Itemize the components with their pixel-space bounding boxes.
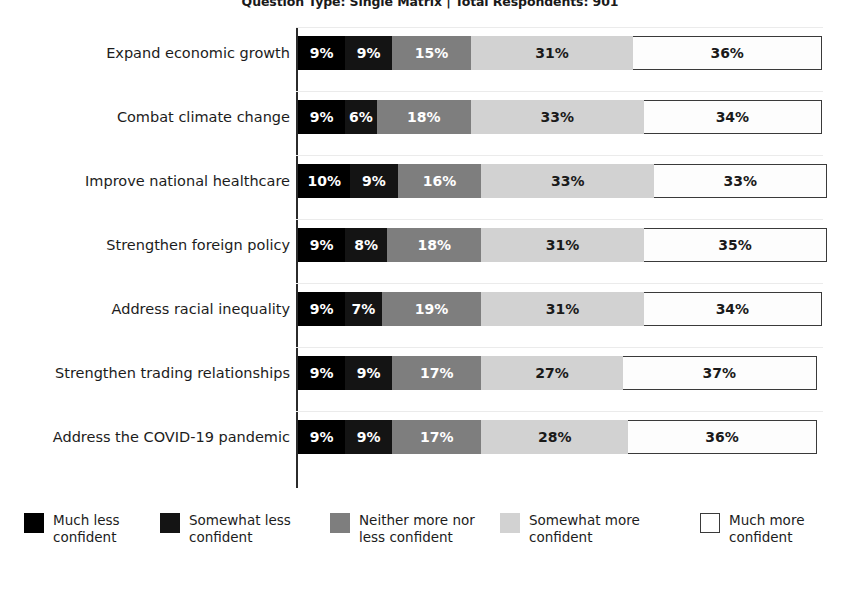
chart-row: Combat climate change9%6%18%33%34%	[0, 100, 860, 134]
gridline	[296, 155, 823, 156]
legend-label: Somewhat more confident	[529, 512, 640, 546]
stacked-bar: 10%9%16%33%33%	[298, 164, 822, 198]
category-label: Address the COVID-19 pandemic	[53, 420, 290, 454]
category-label: Expand economic growth	[106, 36, 290, 70]
gridline	[296, 283, 823, 284]
bar-segment: 15%	[392, 36, 471, 70]
bar-segment: 31%	[481, 228, 643, 262]
bar-segment: 10%	[298, 164, 350, 198]
bar-segment: 17%	[392, 420, 481, 454]
stacked-bar: 9%7%19%31%34%	[298, 292, 822, 326]
bar-segment: 33%	[481, 164, 654, 198]
chart-row: Expand economic growth9%9%15%31%36%	[0, 36, 860, 70]
bar-segment: 7%	[345, 292, 382, 326]
chart-title: Question Type: Single Matrix | Total Res…	[0, 0, 860, 9]
chart-plot-area: Expand economic growth9%9%15%31%36%Comba…	[0, 28, 860, 498]
bar-segment: 9%	[345, 36, 392, 70]
gridline	[296, 411, 823, 412]
bar-segment: 16%	[398, 164, 482, 198]
bar-segment: 6%	[345, 100, 376, 134]
bar-segment: 8%	[345, 228, 387, 262]
chart-row: Address the COVID-19 pandemic9%9%17%28%3…	[0, 420, 860, 454]
legend-label: Somewhat less confident	[189, 512, 291, 546]
legend-swatch-icon	[500, 513, 520, 533]
bar-segment: 9%	[298, 100, 345, 134]
category-label: Improve national healthcare	[85, 164, 290, 198]
legend-swatch-icon	[24, 513, 44, 533]
legend-label: Much more confident	[729, 512, 804, 546]
bar-segment: 36%	[633, 36, 822, 70]
bar-segment: 9%	[345, 420, 392, 454]
legend-swatch-icon	[330, 513, 350, 533]
bar-segment: 34%	[644, 100, 822, 134]
chart-row: Address racial inequality9%7%19%31%34%	[0, 292, 860, 326]
legend-item[interactable]: Somewhat more confident	[500, 512, 640, 546]
legend-label: Much less confident	[53, 512, 120, 546]
category-label: Combat climate change	[117, 100, 290, 134]
legend-swatch-icon	[700, 513, 720, 533]
chart-legend: Much less confidentSomewhat less confide…	[0, 512, 860, 582]
bar-segment: 9%	[298, 228, 345, 262]
bar-segment: 36%	[628, 420, 817, 454]
legend-item[interactable]: Much less confident	[24, 512, 120, 546]
bar-segment: 31%	[471, 36, 633, 70]
stacked-bar: 9%6%18%33%34%	[298, 100, 822, 134]
bar-segment: 9%	[345, 356, 392, 390]
category-label: Strengthen foreign policy	[106, 228, 290, 262]
chart-row: Improve national healthcare10%9%16%33%33…	[0, 164, 860, 198]
legend-item[interactable]: Neither more nor less confident	[330, 512, 475, 546]
bar-segment: 33%	[471, 100, 644, 134]
bar-segment: 17%	[392, 356, 481, 390]
bar-segment: 19%	[382, 292, 482, 326]
stacked-bar: 9%9%17%28%36%	[298, 420, 822, 454]
gridline	[296, 27, 823, 28]
bar-segment: 9%	[298, 356, 345, 390]
bar-segment: 27%	[481, 356, 622, 390]
bar-segment: 28%	[481, 420, 628, 454]
category-label: Address racial inequality	[112, 292, 290, 326]
bar-segment: 18%	[387, 228, 481, 262]
bar-segment: 31%	[481, 292, 643, 326]
legend-item[interactable]: Much more confident	[700, 512, 804, 546]
stacked-bar: 9%8%18%31%35%	[298, 228, 822, 262]
bar-segment: 33%	[654, 164, 827, 198]
bar-segment: 9%	[298, 420, 345, 454]
bar-segment: 18%	[377, 100, 471, 134]
gridline	[296, 91, 823, 92]
chart-row: Strengthen foreign policy9%8%18%31%35%	[0, 228, 860, 262]
gridline	[296, 347, 823, 348]
bar-segment: 9%	[350, 164, 397, 198]
legend-swatch-icon	[160, 513, 180, 533]
category-label: Strengthen trading relationships	[55, 356, 290, 390]
stacked-bar: 9%9%15%31%36%	[298, 36, 822, 70]
bar-segment: 37%	[623, 356, 817, 390]
gridline	[296, 219, 823, 220]
bar-segment: 9%	[298, 36, 345, 70]
bar-segment: 35%	[644, 228, 827, 262]
bar-segment: 9%	[298, 292, 345, 326]
legend-item[interactable]: Somewhat less confident	[160, 512, 291, 546]
chart-row: Strengthen trading relationships9%9%17%2…	[0, 356, 860, 390]
stacked-bar: 9%9%17%27%37%	[298, 356, 822, 390]
bar-segment: 34%	[644, 292, 822, 326]
legend-label: Neither more nor less confident	[359, 512, 475, 546]
